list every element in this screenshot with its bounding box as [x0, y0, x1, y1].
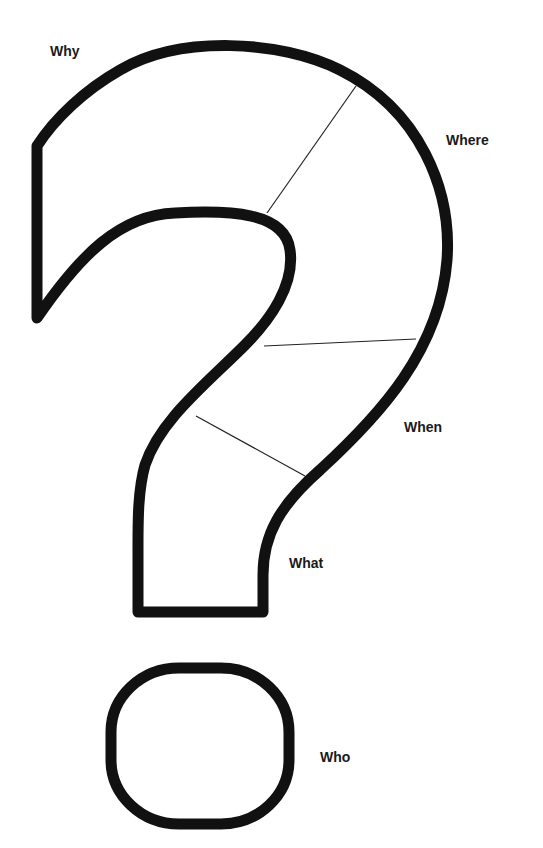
question-mark-diagram [0, 0, 543, 848]
label-who: Who [320, 750, 350, 764]
question-mark-dot [111, 668, 289, 824]
label-where: Where [446, 133, 489, 147]
label-when: When [404, 420, 442, 434]
label-what: What [289, 556, 323, 570]
question-mark-outline [37, 46, 448, 612]
label-why: Why [50, 44, 80, 58]
